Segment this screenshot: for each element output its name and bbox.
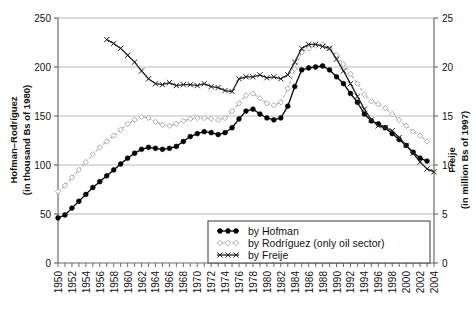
- data-point: [104, 173, 109, 178]
- y-tick-label: 200: [34, 62, 51, 73]
- data-point: [258, 112, 263, 117]
- x-tick-label: 1980: [262, 271, 273, 294]
- data-point: [285, 86, 290, 91]
- data-point: [90, 152, 95, 157]
- chart-container: 050100150200250 0510152025 1950195219541…: [0, 0, 476, 309]
- data-point: [209, 130, 214, 135]
- data-point: [313, 65, 318, 70]
- data-point: [376, 102, 381, 107]
- data-point: [56, 216, 61, 221]
- data-point: [216, 132, 221, 137]
- y-axis-title-line2: (in thousand Bs of 1980): [21, 85, 32, 195]
- y2-axis-tick-labels: 0510152025: [442, 13, 454, 269]
- x-tick-label: 1966: [164, 271, 175, 294]
- data-point: [125, 121, 130, 126]
- y2-tick-label: 20: [442, 62, 454, 73]
- data-point: [355, 94, 360, 99]
- data-point: [63, 213, 68, 218]
- x-tick-label: 1964: [150, 271, 161, 294]
- x-tick-label: 2004: [429, 271, 440, 294]
- data-point: [167, 146, 172, 151]
- x-tick-label: 1956: [95, 271, 106, 294]
- data-point: [226, 229, 231, 234]
- data-point: [90, 185, 95, 190]
- data-point: [257, 96, 262, 101]
- y-axis-tick-labels: 050100150200250: [34, 13, 51, 269]
- x-tick-label: 1974: [220, 271, 231, 294]
- data-point: [424, 139, 429, 144]
- y-tick-label: 0: [45, 258, 51, 269]
- data-point: [362, 107, 367, 112]
- x-tick-label: 1962: [137, 271, 148, 294]
- data-point: [341, 81, 346, 86]
- data-point: [174, 121, 179, 126]
- series-line: [58, 66, 427, 218]
- data-point: [425, 159, 430, 164]
- data-point: [320, 64, 325, 69]
- y-tick-label: 250: [34, 13, 51, 24]
- legend-label: by Rodríguez (only oil sector): [248, 237, 385, 249]
- data-point: [167, 123, 172, 128]
- data-point: [195, 131, 200, 136]
- data-point: [132, 117, 137, 122]
- line-chart: 050100150200250 0510152025 1950195219541…: [0, 0, 476, 309]
- y-axis-title: Hofman–Rodríguez (in thousand Bs of 1980…: [8, 85, 32, 195]
- chart-legend: by Hofmanby Rodríguez (only oil sector)b…: [208, 221, 430, 263]
- x-tick-label: 2000: [401, 271, 412, 294]
- data-point: [202, 129, 207, 134]
- x-tick-label: 1972: [206, 271, 217, 294]
- data-point: [146, 145, 151, 150]
- data-point: [146, 76, 151, 81]
- x-tick-label: 1978: [248, 271, 259, 294]
- data-point: [160, 147, 165, 152]
- data-point: [237, 117, 242, 122]
- x-tick-label: 1994: [359, 271, 370, 294]
- data-point: [153, 119, 158, 124]
- data-point: [125, 156, 130, 161]
- data-point: [76, 199, 81, 204]
- x-tick-label: 1992: [345, 271, 356, 294]
- x-tick-label: 1958: [109, 271, 120, 294]
- data-point: [111, 168, 116, 173]
- data-point: [118, 46, 123, 51]
- x-tick-label: 1970: [192, 271, 203, 294]
- data-point: [139, 147, 144, 152]
- data-point: [264, 116, 269, 121]
- series-3: [104, 37, 436, 175]
- data-point: [188, 116, 193, 121]
- data-point: [181, 118, 186, 123]
- data-point: [139, 114, 144, 119]
- y-tick-label: 150: [34, 111, 51, 122]
- data-point: [271, 103, 276, 108]
- x-axis-tick-labels: 1950195219541956195819601962196419661968…: [53, 271, 440, 294]
- data-point: [285, 72, 290, 77]
- y-tick-label: 50: [40, 209, 52, 220]
- data-point: [234, 229, 239, 234]
- data-point: [83, 192, 88, 197]
- data-point: [174, 144, 179, 149]
- data-point: [334, 74, 339, 79]
- y2-axis-title: Freije (in million Bs of 1997): [446, 111, 470, 209]
- data-point: [292, 84, 297, 89]
- data-point: [70, 206, 75, 211]
- x-tick-label: 1968: [178, 271, 189, 294]
- data-point: [153, 146, 158, 151]
- data-point: [118, 162, 123, 167]
- data-point: [271, 118, 276, 123]
- data-point: [292, 60, 297, 65]
- legend-label: by Freije: [248, 249, 288, 261]
- x-tick-label: 1996: [373, 271, 384, 294]
- data-point: [104, 37, 109, 42]
- x-tick-label: 1976: [234, 271, 245, 294]
- data-point: [244, 109, 249, 114]
- data-point: [215, 117, 220, 122]
- x-tick-label: 1952: [67, 271, 78, 294]
- data-point: [299, 68, 304, 73]
- y2-tick-label: 25: [442, 13, 454, 24]
- data-point: [218, 229, 223, 234]
- gridlines: [58, 18, 434, 214]
- data-point: [424, 166, 429, 171]
- data-point: [223, 130, 228, 135]
- data-point: [396, 117, 401, 122]
- data-point: [111, 41, 116, 46]
